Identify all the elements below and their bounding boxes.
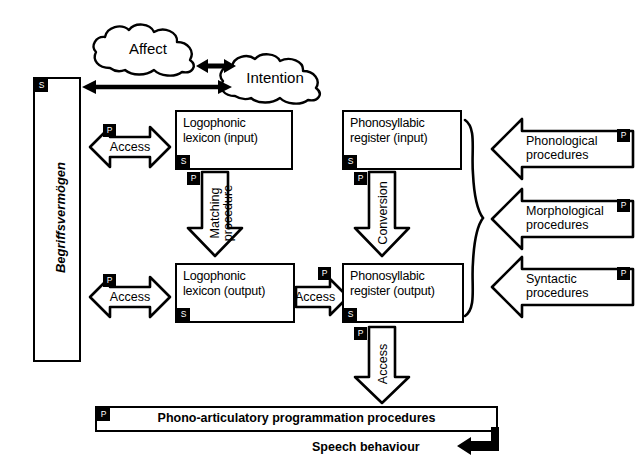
morphological-procedures-line2: procedures bbox=[526, 218, 589, 232]
logophonic-lexicon-output-label: Logophonic lexicon (output) bbox=[183, 269, 289, 299]
syntactic-procedures-label: Syntactic procedures bbox=[526, 272, 626, 300]
phono-articulatory-badge: P bbox=[97, 408, 110, 421]
matching-procedure-badge: P bbox=[187, 172, 200, 185]
phonological-procedures-label: Phonological procedures bbox=[526, 134, 626, 162]
phonosyllabic-register-input-line1: Phonosyllabic bbox=[350, 116, 425, 130]
affect-intention-arrow bbox=[196, 57, 236, 75]
syntactic-procedures-badge: P bbox=[617, 267, 630, 280]
concept-store-badge: S bbox=[35, 79, 48, 92]
phonological-procedures-arrow: Phonological procedures bbox=[490, 115, 635, 183]
morphological-procedures-arrow: Morphological procedures bbox=[490, 185, 635, 253]
access-input-badge: P bbox=[103, 124, 116, 137]
phonological-procedures-line1: Phonological bbox=[526, 134, 598, 148]
access-output-label: Access bbox=[107, 290, 153, 304]
phonosyllabic-register-output-line2: register (output) bbox=[350, 284, 435, 298]
matching-procedure-line2: procedure bbox=[221, 185, 235, 241]
phonosyllabic-register-input-label: Phonosyllabic register (input) bbox=[350, 116, 456, 146]
phonosyllabic-register-output-line1: Phonosyllabic bbox=[350, 269, 425, 283]
access-middle-badge: P bbox=[318, 267, 331, 280]
phonosyllabic-register-input-badge: S bbox=[344, 155, 357, 168]
logophonic-lexicon-input-badge: S bbox=[177, 155, 190, 168]
speech-behaviour-label: Speech behaviour bbox=[312, 440, 420, 454]
phonosyllabic-register-input-box: Phonosyllabic register (input) bbox=[342, 110, 462, 170]
concept-intention-arrow bbox=[82, 79, 232, 95]
access-input-arrow: Access bbox=[88, 122, 172, 172]
syntactic-procedures-arrow: Syntactic procedures bbox=[490, 253, 635, 321]
speech-behaviour-arrow bbox=[457, 427, 501, 455]
access-bottom-label: Access bbox=[376, 331, 390, 397]
matching-procedure-line1: Matching bbox=[208, 188, 222, 239]
grouping-brace bbox=[461, 118, 485, 318]
matching-procedure-label2: procedure bbox=[221, 180, 235, 246]
matching-procedure-label: Matching bbox=[208, 180, 222, 246]
cloud-affect: Affect bbox=[88, 22, 208, 78]
access-middle-label: Access bbox=[295, 290, 335, 304]
logophonic-lexicon-input-label: Logophonic lexicon (input) bbox=[183, 116, 287, 146]
cloud-affect-label: Affect bbox=[88, 40, 208, 57]
access-output-arrow: Access bbox=[88, 272, 172, 322]
logophonic-lexicon-output-badge: S bbox=[177, 308, 190, 321]
syntactic-procedures-line1: Syntactic bbox=[526, 272, 577, 286]
access-input-label: Access bbox=[107, 140, 153, 154]
phono-articulatory-bar: Phono-articulatory programmation procedu… bbox=[95, 406, 498, 432]
phonosyllabic-register-output-label: Phonosyllabic register (output) bbox=[350, 269, 458, 299]
access-output-badge: P bbox=[103, 274, 116, 287]
logophonic-lexicon-output-line1: Logophonic bbox=[183, 269, 246, 283]
diagram-canvas: Affect Intention Begriffsvermögen S Acce… bbox=[0, 0, 639, 476]
morphological-procedures-badge: P bbox=[617, 199, 630, 212]
morphological-procedures-line1: Morphological bbox=[526, 204, 604, 218]
access-bottom-badge: P bbox=[354, 327, 367, 340]
logophonic-lexicon-output-box: Logophonic lexicon (output) bbox=[175, 263, 295, 323]
phonosyllabic-register-output-badge: S bbox=[344, 308, 357, 321]
concept-store-box: Begriffsvermögen bbox=[33, 77, 81, 362]
concept-store-label: Begriffsvermögen bbox=[53, 133, 68, 303]
syntactic-procedures-line2: procedures bbox=[526, 286, 589, 300]
logophonic-lexicon-input-box: Logophonic lexicon (input) bbox=[175, 110, 293, 170]
phonological-procedures-line2: procedures bbox=[526, 148, 589, 162]
morphological-procedures-label: Morphological procedures bbox=[526, 204, 631, 232]
conversion-label: Conversion bbox=[376, 180, 390, 246]
conversion-badge: P bbox=[354, 172, 367, 185]
phono-articulatory-label: Phono-articulatory programmation procedu… bbox=[97, 411, 496, 425]
logophonic-lexicon-input-line1: Logophonic bbox=[183, 116, 246, 130]
logophonic-lexicon-input-line2: lexicon (input) bbox=[183, 131, 258, 145]
logophonic-lexicon-output-line2: lexicon (output) bbox=[183, 284, 265, 298]
phonosyllabic-register-input-line2: register (input) bbox=[350, 131, 427, 145]
phonological-procedures-badge: P bbox=[617, 129, 630, 142]
phonosyllabic-register-output-box: Phonosyllabic register (output) bbox=[342, 263, 464, 323]
